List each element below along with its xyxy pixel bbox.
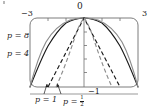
x-axis-label-left: −3: [21, 10, 33, 18]
fraction-denominator: 2: [80, 102, 84, 108]
math-figure-panel: −3 0 3 −1 p = 8 p = 4 p = 1 p = 12: [0, 0, 154, 108]
x-axis-label-right: 3: [142, 10, 147, 18]
y-axis-ticks: [84, 32, 87, 73]
curve-annotation-p1: p = 1: [35, 96, 57, 104]
y-axis-label-top: 0: [77, 2, 83, 11]
leader-arrow-p-half: [57, 84, 61, 94]
curve-annotation-p4: p = 4: [7, 50, 29, 58]
curve-annotation-p8: p = 8: [7, 32, 29, 40]
curve-annotation-p-half: p = 12: [63, 95, 84, 107]
curve-annotation-p-half-prefix: p =: [63, 97, 80, 106]
fraction-one-half: 12: [80, 95, 84, 107]
leader-arrow-p1: [44, 84, 49, 94]
y-axis-label-bottom: −1: [88, 88, 100, 96]
